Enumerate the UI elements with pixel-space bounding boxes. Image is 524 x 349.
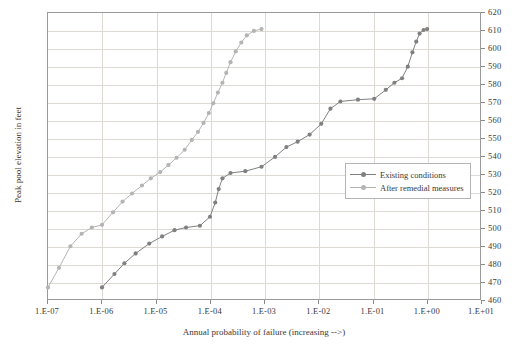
data-point-marker (228, 60, 232, 64)
data-point-marker (239, 40, 243, 44)
x-tick-mark (156, 300, 157, 304)
data-point-marker (224, 71, 228, 75)
data-point-marker (68, 244, 72, 248)
data-point-marker (140, 183, 144, 187)
data-point-marker (196, 130, 200, 134)
y-tick-label: 620 (488, 7, 501, 17)
x-tick-label: 1.E-05 (143, 306, 167, 316)
data-point-marker (234, 49, 238, 53)
y-tick-label: 510 (488, 205, 501, 215)
series-existing-conditions (100, 27, 429, 289)
data-point-marker (417, 31, 421, 35)
x-axis-title: Annual probability of failure (increasin… (47, 327, 481, 337)
y-tick-mark (481, 138, 485, 139)
y-tick-label: 570 (488, 97, 501, 107)
data-point-marker (252, 29, 256, 33)
plot-area (47, 12, 481, 300)
data-point-marker (80, 232, 84, 236)
y-tick-mark (481, 264, 485, 265)
data-point-marker (111, 210, 115, 214)
series-line (102, 29, 427, 287)
y-tick-mark (481, 282, 485, 283)
data-point-marker (216, 90, 220, 94)
y-tick-label: 500 (488, 223, 501, 233)
x-tick-label: 1.E+01 (468, 306, 494, 316)
x-tick-mark (210, 300, 211, 304)
y-tick-label: 550 (488, 133, 501, 143)
data-point-marker (122, 261, 126, 265)
x-tick-label: 1.E-03 (252, 306, 276, 316)
legend-label: After remedial measures (380, 183, 464, 193)
legend-swatch-icon (350, 170, 376, 180)
series-layer (48, 13, 480, 299)
x-tick-label: 1.E-07 (35, 306, 59, 316)
y-tick-mark (481, 30, 485, 31)
data-point-marker (328, 107, 332, 111)
y-tick-mark (481, 12, 485, 13)
x-tick-label: 1.E-06 (89, 306, 113, 316)
y-tick-label: 600 (488, 43, 501, 53)
y-axis-title: Peak pool elevation in feet (13, 75, 23, 235)
x-tick-mark (318, 300, 319, 304)
data-point-marker (57, 266, 61, 270)
data-point-marker (421, 28, 425, 32)
y-tick-mark (481, 192, 485, 193)
data-point-marker (372, 97, 376, 101)
data-point-marker (120, 199, 124, 203)
data-point-marker (220, 81, 224, 85)
x-tick-label: 1.E-02 (306, 306, 330, 316)
data-point-marker (158, 170, 162, 174)
data-point-marker (100, 285, 104, 289)
data-point-marker (160, 234, 164, 238)
x-tick-label: 1.E+00 (414, 306, 440, 316)
y-tick-label: 490 (488, 241, 501, 251)
data-point-marker (190, 138, 194, 142)
y-tick-label: 580 (488, 79, 501, 89)
data-point-marker (46, 285, 50, 289)
y-tick-mark (481, 246, 485, 247)
y-tick-label: 610 (488, 25, 501, 35)
data-point-marker (308, 132, 312, 136)
data-point-marker (213, 200, 217, 204)
data-point-marker (245, 33, 249, 37)
data-point-marker (166, 163, 170, 167)
legend-label: Existing conditions (380, 170, 446, 180)
series-line (48, 29, 262, 287)
data-point-marker (284, 145, 288, 149)
data-point-marker (414, 40, 418, 44)
y-tick-mark (481, 102, 485, 103)
data-point-marker (259, 165, 263, 169)
data-point-marker (338, 99, 342, 103)
y-tick-mark (481, 156, 485, 157)
data-point-marker (211, 101, 215, 105)
y-tick-label: 540 (488, 151, 501, 161)
y-tick-label: 480 (488, 259, 501, 269)
y-tick-label: 520 (488, 187, 501, 197)
data-point-marker (184, 225, 188, 229)
legend-swatch-icon (350, 183, 376, 193)
data-point-marker (319, 122, 323, 126)
data-point-marker (259, 27, 263, 31)
chart-container: 1.E-071.E-061.E-051.E-041.E-031.E-021.E-… (0, 0, 524, 349)
y-tick-label: 470 (488, 277, 501, 287)
x-tick-mark (264, 300, 265, 304)
data-point-marker (208, 215, 212, 219)
data-point-marker (130, 191, 134, 195)
y-tick-mark (481, 300, 485, 301)
y-tick-mark (481, 66, 485, 67)
data-point-marker (217, 187, 221, 191)
series-after-remedial-measures (46, 27, 264, 289)
data-point-marker (400, 76, 404, 80)
data-point-marker (243, 169, 247, 173)
y-tick-label: 590 (488, 61, 501, 71)
data-point-marker (90, 225, 94, 229)
y-tick-label: 560 (488, 115, 501, 125)
data-point-marker (296, 140, 300, 144)
x-tick-mark (47, 300, 48, 304)
y-tick-mark (481, 48, 485, 49)
data-point-marker (410, 50, 414, 54)
data-point-marker (183, 148, 187, 152)
data-point-marker (147, 242, 151, 246)
y-tick-mark (481, 174, 485, 175)
x-tick-mark (427, 300, 428, 304)
